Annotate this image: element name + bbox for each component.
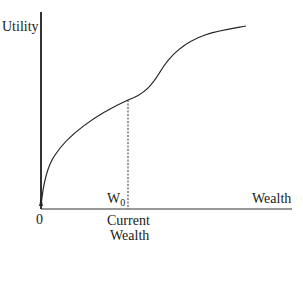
x-axis-label: Wealth bbox=[252, 192, 291, 206]
utility-diagram bbox=[0, 0, 303, 282]
w0-label: W0 bbox=[107, 192, 125, 210]
current-wealth-caption-1: Current bbox=[107, 214, 150, 228]
utility-curve bbox=[41, 26, 246, 206]
origin-arrow-icon bbox=[39, 198, 43, 206]
current-wealth-caption-2: Wealth bbox=[110, 229, 149, 243]
origin-label: 0 bbox=[36, 213, 43, 227]
y-axis-label: Utility bbox=[2, 20, 39, 34]
